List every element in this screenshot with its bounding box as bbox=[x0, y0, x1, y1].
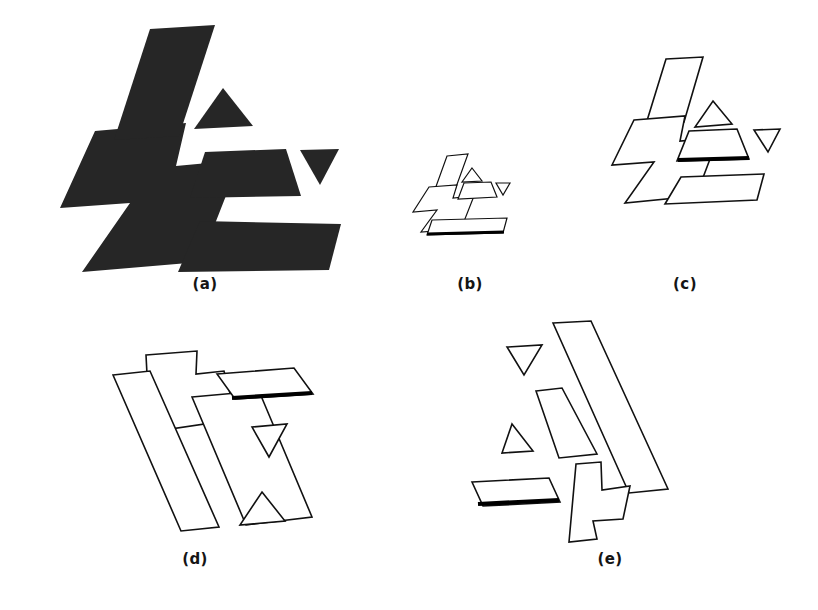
shape-a-triangle-down bbox=[300, 149, 339, 185]
shape-e-triangle-down bbox=[507, 345, 542, 375]
shape-c-emphasis-edge bbox=[678, 158, 749, 160]
shape-a-triangle-up bbox=[194, 88, 253, 129]
shape-b-trapezoid bbox=[458, 182, 497, 199]
shape-a-trapezoid bbox=[190, 149, 301, 198]
panel-b bbox=[400, 145, 530, 255]
caption-d: (d) bbox=[145, 550, 245, 568]
panel-c bbox=[590, 45, 810, 245]
shape-b-emphasis-edge bbox=[427, 232, 504, 234]
figure-page: (a) (b) (c) bbox=[0, 0, 818, 610]
shape-c-slanted-bar bbox=[646, 57, 703, 124]
panel-d-drawing bbox=[105, 320, 355, 545]
shape-b-triangle-up bbox=[462, 168, 482, 182]
shape-e-triangle-up bbox=[502, 424, 533, 453]
panel-a-drawing bbox=[0, 0, 409, 285]
panel-e-drawing bbox=[445, 315, 695, 545]
caption-c: (c) bbox=[635, 275, 735, 293]
caption-b: (b) bbox=[420, 275, 520, 293]
shape-a-bottom-bar bbox=[178, 221, 341, 272]
caption-a: (a) bbox=[155, 275, 255, 293]
panel-a bbox=[0, 0, 409, 285]
shape-b-triangle-down bbox=[496, 183, 510, 195]
caption-e: (e) bbox=[560, 550, 660, 568]
panel-d bbox=[105, 320, 355, 545]
panel-c-drawing bbox=[590, 45, 810, 245]
shape-c-triangle-down bbox=[754, 129, 780, 152]
shape-c-triangle-up bbox=[695, 101, 732, 127]
panel-b-drawing bbox=[400, 145, 530, 255]
panel-e bbox=[445, 315, 695, 545]
shape-c-base-bar bbox=[665, 174, 764, 204]
shape-c-trapezoid bbox=[677, 129, 749, 161]
